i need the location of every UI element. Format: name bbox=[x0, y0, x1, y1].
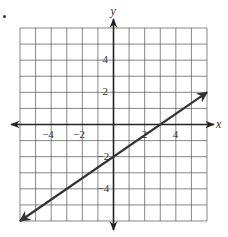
x-tick-label: −2 bbox=[73, 129, 85, 140]
y-tick-label: 2 bbox=[103, 86, 109, 97]
y-tick-label: −4 bbox=[98, 183, 110, 194]
x-tick-label: 2 bbox=[142, 129, 148, 140]
graph-svg bbox=[0, 0, 228, 237]
x-tick-label: −4 bbox=[42, 129, 54, 140]
problem-bullet bbox=[3, 15, 6, 18]
y-tick-label: 4 bbox=[103, 54, 109, 65]
x-axis-label: x bbox=[216, 117, 221, 132]
y-axis-label: y bbox=[111, 4, 116, 19]
y-tick-label: −2 bbox=[98, 151, 110, 162]
coordinate-plane: y x −4−22442−2−4 bbox=[0, 0, 228, 237]
x-tick-label: 4 bbox=[173, 129, 179, 140]
